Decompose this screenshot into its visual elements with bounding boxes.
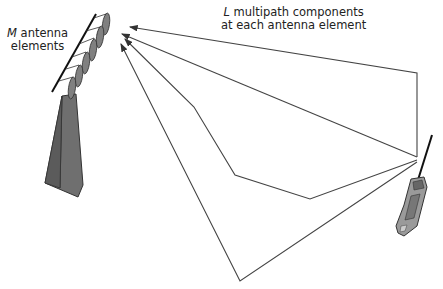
antenna-elements-label: M antenna elements: [7, 27, 68, 53]
path-3: [125, 39, 417, 199]
tower-icon: [45, 94, 83, 197]
multipath-components-label: L multipath components at each antenna e…: [221, 6, 366, 32]
path-1: [130, 27, 417, 157]
path-2: [122, 34, 417, 157]
multipath-diagram: M antenna elements L multipath component…: [0, 0, 443, 289]
